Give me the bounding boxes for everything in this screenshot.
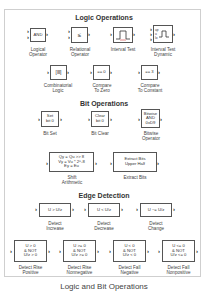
section-title-bit-operations: Bit Operations <box>0 100 208 107</box>
block-label: Interval Test Dynamic <box>146 47 180 58</box>
detect-change-icon[interactable]: U ~= U/z <box>140 203 172 217</box>
input-port-icon: › <box>90 69 92 75</box>
combinatorial-logic-icon[interactable]: [ⅠⅠⅠ] <box>50 65 67 80</box>
block-label: Bitwise Operator <box>134 131 168 142</box>
input-port-icon: › <box>84 206 86 212</box>
input-port-icon: › <box>158 248 160 254</box>
output-port-icon: › <box>48 248 50 254</box>
output-port-icon: › <box>72 206 74 212</box>
output-port-icon: › <box>95 160 97 166</box>
input-port-icon: › <box>150 36 152 42</box>
output-port-icon: › <box>133 31 135 37</box>
input-port-icon: › <box>38 116 40 122</box>
input-port-icon: › <box>68 34 70 40</box>
block-label: Bit Clear <box>85 131 115 136</box>
input-port-icon: › <box>47 69 49 75</box>
output-port-icon: › <box>88 31 90 37</box>
block-label: Detect Fall Nonpositive <box>159 265 198 276</box>
output-port-icon: › <box>110 116 112 122</box>
block-label: Extract Bits <box>118 175 152 180</box>
block-label: Bit Set <box>35 131 65 136</box>
block-label: Relational Operator <box>64 47 96 58</box>
output-port-icon: › <box>196 248 198 254</box>
output-port-icon: › <box>157 160 159 166</box>
block-label: Compare To Zero <box>85 83 119 94</box>
output-port-icon: › <box>158 69 160 75</box>
bitwise-operator-icon[interactable]: Bitwise AND 0xD9 <box>141 109 160 128</box>
output-port-icon: › <box>46 31 48 37</box>
extract-bits-icon[interactable]: Extract Bits Upper Half <box>113 152 157 172</box>
detect-fall-negative-icon[interactable]: U < 0 & NOT U/z < 0 <box>113 240 146 262</box>
input-port-icon: › <box>138 116 140 122</box>
block-label: Detect Increase <box>39 221 71 232</box>
block-label: Combinatorial Logic <box>40 83 76 94</box>
block-label: Detect Rise Nonnegative <box>60 265 99 276</box>
input-port-icon: › <box>136 206 138 212</box>
detect-rise-nonnegative-icon[interactable]: U >= 0 & NOT U/z >= 0 <box>63 240 96 262</box>
logical-operator-icon[interactable]: AND <box>30 28 46 42</box>
block-label: Detect Decrease <box>88 221 120 232</box>
output-port-icon: › <box>147 248 149 254</box>
input-port-icon: › <box>138 69 140 75</box>
output-port-icon: › <box>97 248 99 254</box>
shift-arithmetic-icon[interactable]: Qy = Qu >> 8 Vy = Vu * 2^-8 Ey = Eu <box>49 152 94 172</box>
input-port-icon: › <box>10 248 12 254</box>
block-label: Compare To Constant <box>131 83 169 94</box>
detect-fall-nonpositive-icon[interactable]: U <= 0 & NOT U/z <= 0 <box>162 240 195 262</box>
output-port-icon: › <box>121 206 123 212</box>
block-label: Detect Change <box>140 221 172 232</box>
input-port-icon: › <box>110 160 112 166</box>
output-port-icon: › <box>173 31 175 37</box>
input-port-icon: › <box>46 160 48 166</box>
compare-to-zero-icon[interactable]: == 0 <box>93 65 110 80</box>
output-port-icon: › <box>173 206 175 212</box>
input-port-icon: › <box>109 248 111 254</box>
bit-clear-icon[interactable]: Clear bit 0 <box>91 111 109 127</box>
detect-decrease-icon[interactable]: U < U/z <box>88 203 120 217</box>
input-port-icon: › <box>27 34 29 40</box>
section-title-edge-detection: Edge Detection <box>0 192 208 199</box>
section-title-logic-operations: Logic Operations <box>0 14 208 21</box>
block-label: Logical Operator <box>23 47 53 58</box>
detect-increase-icon[interactable]: U > U/z <box>39 203 71 217</box>
relational-operator-icon[interactable]: ≤ <box>71 27 88 43</box>
input-port-icon: › <box>88 116 90 122</box>
block-label: Detect Fall Negative <box>111 265 148 276</box>
bit-set-icon[interactable]: Set bit 0 <box>41 111 59 127</box>
interval-test-dynamic-icon[interactable]: up u lo <box>153 25 173 43</box>
output-port-icon: › <box>110 69 112 75</box>
output-port-icon: › <box>67 69 69 75</box>
compare-to-constant-icon[interactable]: == 3 <box>141 65 158 80</box>
interval-test-icon[interactable] <box>113 27 133 43</box>
pulse-icon <box>115 29 131 41</box>
block-label: Interval Test <box>106 47 140 52</box>
input-port-icon: › <box>110 31 112 37</box>
figure-caption: Logic and Bit Operations <box>0 282 208 291</box>
input-port-icon: › <box>35 206 37 212</box>
output-port-icon: › <box>160 116 162 122</box>
block-label: Shift Arithmetic <box>56 175 88 186</box>
input-port-icon: › <box>59 248 61 254</box>
pulse-icon <box>159 29 170 39</box>
output-port-icon: › <box>60 116 62 122</box>
block-label: Detect Rise Positive <box>12 265 49 276</box>
detect-rise-positive-icon[interactable]: U > 0 & NOT U/z > 0 <box>14 240 47 262</box>
